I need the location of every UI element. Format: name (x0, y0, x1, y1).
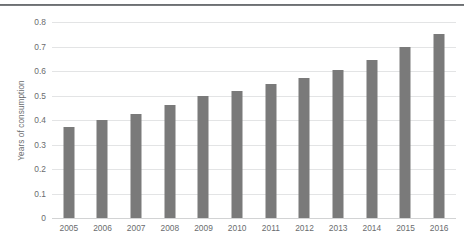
y-axis-title-label: Years of consumption (17, 80, 26, 160)
x-axis-tick-label: 2008 (161, 223, 180, 233)
x-axis-tick-label: 2010 (228, 223, 247, 233)
bar (299, 78, 310, 218)
bar-slot (187, 22, 221, 218)
y-axis-tick-label: 0.6 (34, 66, 46, 76)
y-axis-tick-label: 0.5 (34, 91, 46, 101)
y-axis-tick-label: 0.4 (34, 115, 46, 125)
bar (63, 127, 74, 218)
y-axis-tick-label: 0.7 (34, 42, 46, 52)
bar (131, 114, 142, 218)
x-axis-tick-label: 2005 (60, 223, 79, 233)
y-axis-tick-label: 0.3 (34, 140, 46, 150)
x-axis-tick-label: 2009 (194, 223, 213, 233)
bar (333, 70, 344, 218)
bar (97, 120, 108, 218)
bar (232, 91, 243, 218)
bar-slot (153, 22, 187, 218)
gridline (52, 218, 456, 219)
x-axis-tick-label: 2016 (430, 223, 449, 233)
bar-slot (288, 22, 322, 218)
bar-slot (254, 22, 288, 218)
plot-area: 00.10.20.30.40.50.60.70.8 20052006200720… (52, 22, 456, 218)
bar (400, 47, 411, 219)
y-axis-tick-label: 0.8 (34, 17, 46, 27)
x-axis-tick-label: 2014 (363, 223, 382, 233)
bar-slot (86, 22, 120, 218)
y-axis-tick-label: 0.2 (34, 164, 46, 174)
bar-slot (355, 22, 389, 218)
y-axis-tick-label: 0.1 (34, 189, 46, 199)
bar-slot (52, 22, 86, 218)
bar-chart: Years of consumption 00.10.20.30.40.50.6… (0, 0, 464, 242)
bar-slot (119, 22, 153, 218)
bar (366, 60, 377, 218)
x-axis-tick-label: 2015 (396, 223, 415, 233)
bar-slot (422, 22, 456, 218)
bar (164, 105, 175, 218)
bar (434, 34, 445, 218)
bar (265, 84, 276, 218)
bar (198, 96, 209, 219)
x-axis-tick-label: 2012 (295, 223, 314, 233)
bar-slot (220, 22, 254, 218)
bar-slot (321, 22, 355, 218)
x-axis-tick-label: 2006 (93, 223, 112, 233)
y-axis-tick-label: 0 (41, 213, 46, 223)
x-axis-tick-label: 2013 (329, 223, 348, 233)
x-axis-tick-label: 2007 (127, 223, 146, 233)
x-axis-tick-label: 2011 (262, 223, 280, 233)
y-axis-title: Years of consumption (13, 60, 29, 180)
bar-slot (389, 22, 423, 218)
bar-series (52, 22, 456, 218)
